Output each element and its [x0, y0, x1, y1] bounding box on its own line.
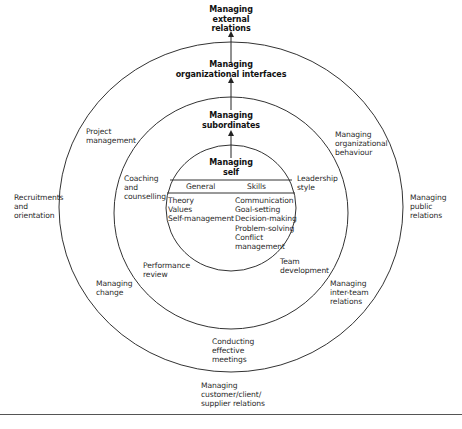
label-conducting-effective-meetings: Conducting effective meetings — [212, 337, 254, 365]
label-managing-public-relations: Managing public relations — [410, 193, 446, 221]
label-managing-customer-client-supplier-relations: Managing customer/client/ supplier relat… — [201, 381, 265, 409]
label-managing-inter-team-relations: Managing inter-team relations — [330, 279, 369, 307]
inner-header-general: General — [186, 182, 215, 191]
inner-general-items: Theory Values Self-management — [168, 196, 234, 224]
label-managing-subordinates: Managing subordinates — [190, 111, 272, 130]
label-managing-self: Managing self — [200, 158, 262, 177]
label-project-management: Project management — [86, 127, 136, 145]
label-performance-review: Performance review — [143, 261, 190, 279]
label-team-development: Team development — [280, 257, 329, 275]
label-recruitments-and-orientation: Recruitments and orientation — [14, 193, 63, 221]
label-managing-organizational-behaviour: Managing organizational behaviour — [335, 130, 388, 158]
label-managing-change: Managing change — [96, 279, 132, 297]
concentric-management-diagram: Managing external relations Managing org… — [0, 0, 462, 429]
label-leadership-style: Leadership style — [297, 174, 338, 192]
label-managing-organizational-interfaces: Managing organizational interfaces — [166, 60, 296, 79]
bottom-rule — [0, 414, 462, 415]
inner-header-skills: Skills — [247, 182, 266, 191]
label-coaching-and-counselling: Coaching and counselling — [124, 174, 166, 202]
label-managing-external-relations: Managing external relations — [198, 5, 264, 34]
inner-skills-items: Communication Goal-setting Decision-maki… — [235, 196, 297, 251]
